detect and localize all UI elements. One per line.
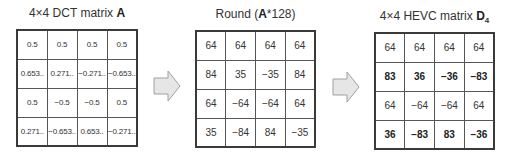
matrix-cell: −64 [435, 91, 465, 120]
matrix-cell: 64 [464, 91, 494, 120]
matrix-cell: 0.5 [17, 88, 47, 117]
rounded-matrix: 64 64 64 64 84 35 −35 84 64 −64 −64 64 3… [195, 30, 316, 148]
hevc-matrix-title: 4×4 HEVC matrix D4 [374, 9, 495, 25]
matrix-cell: 0.653.. [17, 59, 47, 88]
matrix-cell: 0.271.. [47, 59, 77, 88]
matrix-cell: −0.271.. [77, 59, 107, 88]
matrix-cell: −64 [226, 89, 256, 118]
matrix-cell: 84 [196, 60, 226, 89]
title-symbol: D [476, 9, 485, 23]
matrix-cell: 64 [196, 31, 226, 60]
matrix-cell: 83 [435, 120, 465, 149]
title-text: Round ( [215, 7, 258, 21]
dct-matrix-title: 4×4 DCT matrix A [16, 6, 138, 20]
matrix-cell: 64 [464, 33, 494, 62]
matrix-cell: −35 [285, 118, 315, 147]
round-matrix-title: Round (A*128) [195, 7, 316, 21]
matrix-cell: −35 [256, 60, 286, 89]
right-arrow-icon [153, 70, 181, 102]
matrix-cell: 64 [285, 89, 315, 118]
title-text: 4×4 DCT matrix [29, 6, 116, 20]
matrix-cell: 84 [285, 60, 315, 89]
matrix-cell: 35 [196, 118, 226, 147]
matrix-cell: −0.653.. [47, 117, 77, 146]
right-arrow-icon [332, 71, 360, 103]
title-symbol: A [258, 7, 267, 21]
matrix-cell: 64 [196, 89, 226, 118]
title-subscript: 4 [485, 16, 489, 25]
matrix-cell: 83 [375, 62, 405, 91]
matrix-cell: −83 [464, 62, 494, 91]
matrix-cell: −64 [256, 89, 286, 118]
matrix-cell: 64 [375, 33, 405, 62]
matrix-cell: −0.5 [77, 88, 107, 117]
matrix-cell: 64 [375, 91, 405, 120]
matrix-cell: 0.5 [47, 30, 77, 59]
matrix-cell: 0.5 [77, 30, 107, 59]
matrix-cell: 64 [435, 33, 465, 62]
title-text: 4×4 HEVC matrix [380, 9, 476, 23]
hevc-matrix: 64 64 64 64 83 36 −36 −83 64 −64 −64 64 … [374, 32, 495, 150]
matrix-cell: 0.5 [107, 30, 137, 59]
dct-matrix: 0.5 0.5 0.5 0.5 0.653.. 0.271.. −0.271..… [16, 29, 138, 147]
matrix-cell: −0.653.. [107, 59, 137, 88]
matrix-cell: −36 [464, 120, 494, 149]
matrix-cell: −83 [405, 120, 435, 149]
matrix-cell: 0.653.. [77, 117, 107, 146]
matrix-cell: −84 [226, 118, 256, 147]
matrix-cell: 0.5 [107, 88, 137, 117]
matrix-cell: −64 [405, 91, 435, 120]
matrix-cell: 0.271.. [17, 117, 47, 146]
matrix-cell: 36 [375, 120, 405, 149]
title-symbol: A [116, 6, 125, 20]
matrix-cell: −36 [435, 62, 465, 91]
title-text: *128) [267, 7, 296, 21]
matrix-cell: 64 [285, 31, 315, 60]
matrix-cell: 84 [256, 118, 286, 147]
matrix-cell: 0.5 [17, 30, 47, 59]
matrix-cell: 64 [405, 33, 435, 62]
matrix-cell: 64 [226, 31, 256, 60]
matrix-cell: 64 [256, 31, 286, 60]
matrix-cell: 36 [405, 62, 435, 91]
matrix-cell: −0.5 [47, 88, 77, 117]
matrix-cell: 35 [226, 60, 256, 89]
matrix-cell: −0.271.. [107, 117, 137, 146]
